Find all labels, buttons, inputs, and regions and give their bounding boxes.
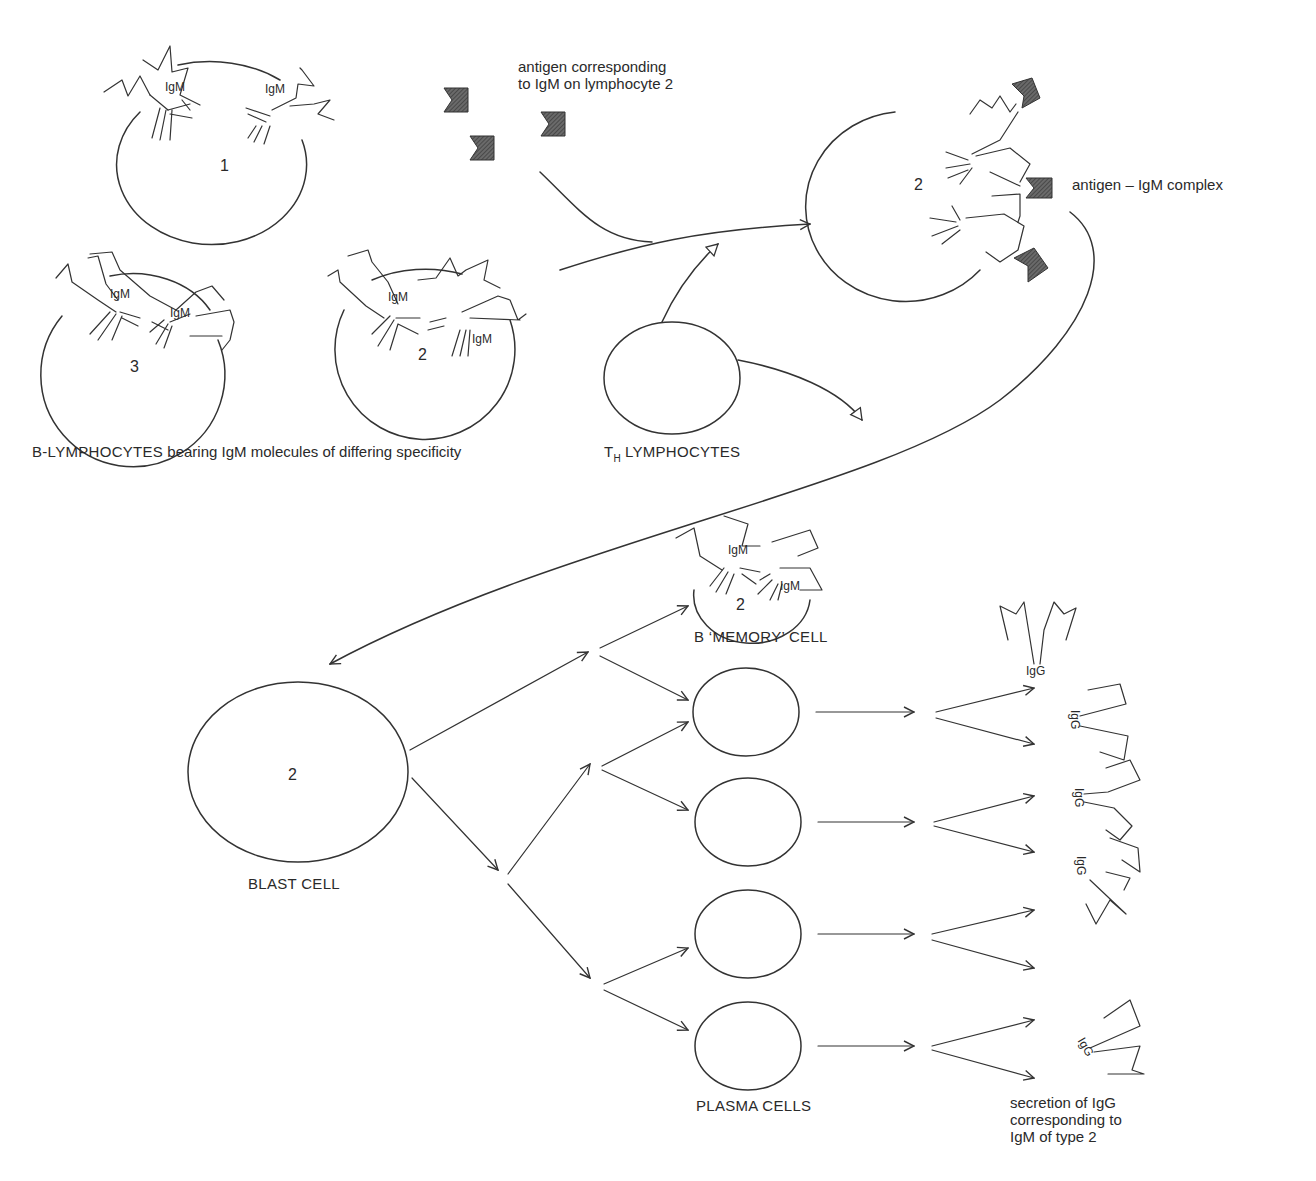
antigen-note: antigen corresponding to IgM on lymphocy…	[518, 58, 673, 92]
memory-cell-label: B ‘MEMORY’ CELL	[694, 628, 828, 645]
cell-number-3: 3	[130, 358, 139, 376]
antigen-icon	[444, 88, 468, 112]
plasma-cell-4	[695, 1002, 801, 1090]
b-lymphocyte-1	[104, 46, 334, 245]
igg-label: IgG	[1074, 856, 1088, 875]
activation-arrows	[540, 172, 810, 322]
cell-number-memory: 2	[736, 596, 745, 614]
secretion-note: secretion of IgG corresponding to IgM of…	[1010, 1094, 1122, 1145]
igm-label: IgM	[388, 290, 408, 304]
igm-label: IgM	[110, 287, 130, 301]
antigen-icon	[470, 136, 494, 160]
b-lymphocytes-caption: B-LYMPHOCYTES bearing IgM molecules of d…	[32, 443, 461, 460]
th-title: LYMPHOCYTES	[625, 443, 741, 460]
th-lymphocytes-caption: TH LYMPHOCYTES	[604, 443, 740, 462]
igg-label: IgG	[1026, 664, 1045, 678]
plasma-cells-label: PLASMA CELLS	[696, 1097, 811, 1114]
antigen-icon	[1026, 178, 1052, 198]
blast-cell-label: BLAST CELL	[248, 875, 340, 892]
igm-label: IgM	[728, 543, 748, 557]
complex-to-blast-arrow	[330, 212, 1094, 664]
igg-label: IgG	[1072, 788, 1086, 807]
cell-number-blast: 2	[288, 766, 297, 784]
b-lymphocyte-2	[328, 250, 526, 439]
memory-cell	[676, 516, 822, 643]
antigen-icon	[541, 112, 565, 136]
b-lymphocytes-desc: bearing IgM molecules of differing speci…	[167, 443, 461, 460]
th-subscript: H	[613, 453, 620, 464]
b-lymphocytes-title: B-LYMPHOCYTES	[32, 443, 163, 460]
cell-number-2: 2	[418, 346, 427, 364]
igm-label: IgM	[265, 82, 285, 96]
blast-cell	[188, 682, 408, 862]
plasma-cell-1	[693, 668, 799, 756]
igg-label: IgG	[1068, 710, 1082, 729]
free-antigens	[444, 88, 565, 160]
plasma-cells	[693, 668, 801, 1090]
antigen-complex-label: antigen – IgM complex	[1072, 176, 1223, 193]
plasma-cell-3	[695, 890, 801, 978]
th-cell	[604, 322, 740, 434]
antigen-icon	[1014, 248, 1048, 282]
igm-label: IgM	[170, 306, 190, 320]
igm-label: IgM	[165, 80, 185, 94]
secretion-arrows	[816, 688, 1034, 1078]
igm-label: IgM	[472, 332, 492, 346]
th-lymphocyte	[604, 322, 862, 434]
blast-division-arrows	[410, 606, 688, 1030]
cell-number-complex: 2	[914, 176, 923, 194]
igm-label: IgM	[780, 579, 800, 593]
igg-molecules	[1000, 602, 1144, 1074]
plasma-cell-2	[695, 778, 801, 866]
antigen-igm-complex	[806, 78, 1052, 301]
cell-number-1: 1	[220, 157, 229, 175]
